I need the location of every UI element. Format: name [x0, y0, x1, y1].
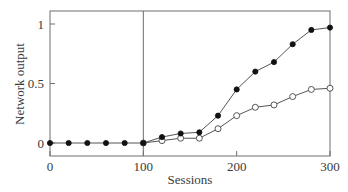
- x-tick-label: 200: [227, 159, 247, 174]
- y-tick-label: 0.5: [28, 76, 44, 91]
- data-point: [178, 131, 183, 136]
- x-tick-label: 300: [320, 159, 340, 174]
- plot-border: [50, 11, 330, 156]
- data-point: [215, 113, 220, 118]
- markers-filled-markers: [47, 25, 332, 146]
- data-point: [253, 69, 258, 74]
- y-tick-label: 1: [38, 17, 45, 32]
- x-tick-label: 0: [47, 159, 54, 174]
- y-tick-label: 0: [38, 136, 45, 151]
- data-point: [234, 113, 240, 119]
- data-point: [252, 104, 258, 110]
- data-point: [271, 102, 277, 108]
- line-chart: 00.510100200300 Sessions Network output: [0, 0, 348, 192]
- y-axis-label: Network output: [12, 43, 27, 125]
- plot-frame: [50, 11, 330, 156]
- data-point: [309, 27, 314, 32]
- data-point: [85, 140, 90, 145]
- data-point: [141, 140, 146, 145]
- markers-open-markers: [140, 85, 333, 146]
- data-point: [122, 140, 127, 145]
- data-point: [327, 25, 332, 30]
- series-filled-markers: [50, 28, 330, 143]
- data-point: [271, 59, 276, 64]
- data-point: [327, 85, 333, 91]
- data-point: [308, 86, 314, 92]
- data-point: [290, 94, 296, 100]
- data-point: [196, 135, 202, 141]
- data-point: [66, 140, 71, 145]
- x-axis-label: Sessions: [168, 172, 213, 187]
- data-point: [290, 42, 295, 47]
- data-point: [234, 87, 239, 92]
- data-point: [197, 130, 202, 135]
- data-point: [159, 134, 164, 139]
- series-line: [50, 28, 330, 143]
- x-tick-label: 100: [134, 159, 154, 174]
- data-series: [47, 25, 333, 146]
- data-point: [103, 140, 108, 145]
- data-point: [215, 126, 221, 132]
- data-point: [47, 140, 52, 145]
